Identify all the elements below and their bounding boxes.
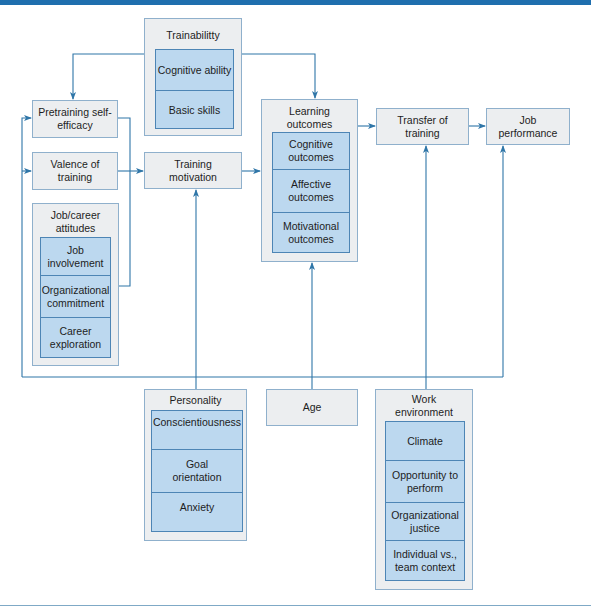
job-career-attitudes-box: Job/career attitudes Job involvement Org… — [32, 203, 119, 366]
age-box: Age — [266, 389, 358, 426]
bottom-divider — [0, 605, 591, 606]
learning-outcomes-title: Learning outcomes — [262, 105, 357, 131]
personality-box: Personality Conscientiousness Goal orien… — [144, 389, 247, 541]
work-environment-box: Work environment Climate Opportunity to … — [375, 389, 473, 590]
transfer-of-training-box: Transfer of training — [376, 108, 469, 145]
cognitive-ability-item: Cognitive ability — [156, 50, 233, 90]
climate-item: Climate — [386, 422, 464, 460]
career-exploration-item: Career exploration — [41, 317, 110, 358]
basic-skills-item: Basic skills — [156, 90, 233, 129]
motivational-outcomes-item: Motivational outcomes — [273, 212, 349, 253]
top-color-bar — [0, 0, 591, 5]
personality-items: Conscientiousness Goal orientation Anxie… — [151, 410, 243, 532]
learning-outcomes-box: Learning outcomes Cognitive outcomes Aff… — [261, 99, 358, 262]
work-environment-title: Work environment — [376, 393, 472, 419]
organizational-commitment-item: Organizational commitment — [41, 275, 110, 317]
affective-outcomes-item: Affective outcomes — [273, 169, 349, 212]
training-motivation-box: Training motivation — [144, 152, 242, 189]
work-environment-items: Climate Opportunity to perform Organizat… — [385, 421, 465, 581]
opportunity-to-perform-item: Opportunity to perform — [386, 460, 464, 502]
valence-of-training-box: Valence of training — [32, 152, 118, 190]
job-career-items: Job involvement Organizational commitmen… — [40, 237, 111, 358]
cognitive-outcomes-item: Cognitive outcomes — [273, 133, 349, 169]
pretraining-self-efficacy-box: Pretraining self-efficacy — [32, 100, 118, 138]
personality-title: Personality — [145, 394, 246, 407]
organizational-justice-item: Organizational justice — [386, 502, 464, 540]
individual-vs-team-context-item: Individual vs., team context — [386, 540, 464, 581]
trainability-items: Cognitive ability Basic skills — [155, 49, 234, 129]
goal-orientation-item: Goal orientation — [152, 449, 242, 492]
conscientiousness-item: Conscientiousness — [152, 411, 242, 449]
job-performance-box: Job performance — [486, 108, 570, 145]
job-involvement-item: Job involvement — [41, 238, 110, 275]
job-career-attitudes-title: Job/career attitudes — [33, 209, 118, 235]
learning-outcomes-items: Cognitive outcomes Affective outcomes Mo… — [272, 132, 350, 253]
anxiety-item: Anxiety — [152, 492, 242, 532]
trainability-box: Trainabilitty Cognitive ability Basic sk… — [144, 18, 242, 136]
trainability-title: Trainabilitty — [145, 29, 241, 42]
